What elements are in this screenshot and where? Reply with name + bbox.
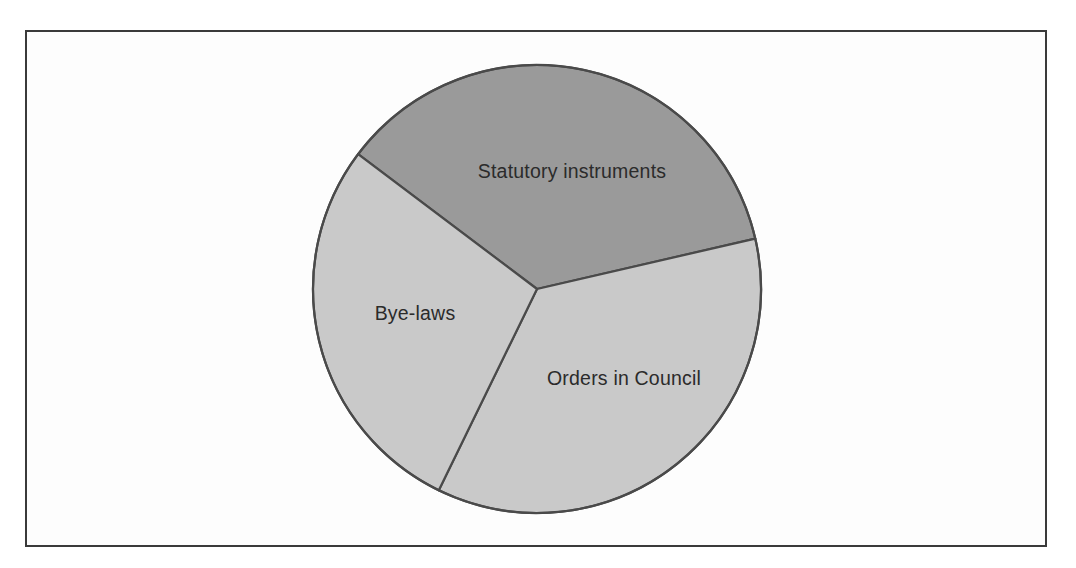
pie-chart: Statutory instruments Orders in Council … bbox=[27, 32, 1049, 549]
pie-label-statutory-instruments: Statutory instruments bbox=[478, 162, 666, 182]
pie-label-bye-laws: Bye-laws bbox=[375, 304, 456, 324]
pie-chart-svg bbox=[27, 32, 1049, 549]
figure-frame: Statutory instruments Orders in Council … bbox=[25, 30, 1047, 547]
figure-canvas: Statutory instruments Orders in Council … bbox=[0, 0, 1076, 568]
pie-label-orders-in-council: Orders in Council bbox=[547, 369, 701, 389]
